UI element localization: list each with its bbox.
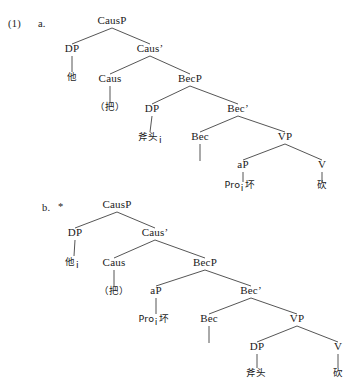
node-text: V <box>334 340 342 352</box>
tree-node-ba: （把） <box>99 285 130 296</box>
tree-node-bec-head: Bec <box>200 312 218 324</box>
node-text: 他 <box>65 256 75 267</box>
node-text: Bec <box>191 130 209 142</box>
node-text: DP <box>250 340 264 352</box>
node-subscript: i <box>155 316 158 327</box>
tree-node-pro-huai: Proi坏 <box>139 313 170 327</box>
node-text: 斧头 <box>138 131 158 142</box>
node-text: 斧头 <box>246 367 266 378</box>
tree-branch <box>156 270 205 286</box>
node-subscript: i <box>159 134 162 145</box>
tree-node-caus-bar: Caus’ <box>142 226 169 238</box>
tree-node-ta: 他 <box>67 71 77 82</box>
node-text: BecP <box>193 256 217 268</box>
tree-branch <box>150 116 152 132</box>
tree-node-dp-object: DP <box>250 340 264 352</box>
node-suffix: 坏 <box>159 313 169 324</box>
tree-canvas: CausPDPCaus’他CausBecP（把）DPBec’斧头iBecVPaP… <box>0 0 357 392</box>
tree-b: CausPDPCaus’他iCausBecP（把）aPBec’Proi坏BecV… <box>65 198 343 378</box>
tree-node-ap: aP <box>150 284 161 296</box>
tree-node-causp: CausP <box>97 14 126 26</box>
node-text: Bec’ <box>240 284 262 296</box>
node-text: Pro <box>139 313 155 324</box>
tree-a: CausPDPCaus’他CausBecP（把）DPBec’斧头iBecVPaP… <box>65 14 327 193</box>
node-text: 他 <box>67 71 77 82</box>
node-text: aP <box>150 284 161 296</box>
node-text: 砍 <box>333 367 343 378</box>
tree-node-dp-subject: DP <box>65 42 79 54</box>
node-text: VP <box>290 312 304 324</box>
node-text: VP <box>278 130 292 142</box>
tree-branch <box>74 240 75 256</box>
node-text: BecP <box>178 72 202 84</box>
tree-node-caus-head: Caus <box>103 256 126 268</box>
node-text: Bec <box>200 312 218 324</box>
node-text: Caus’ <box>142 226 169 238</box>
tree-node-kan: 砍 <box>317 179 327 190</box>
tree-node-ta: 他i <box>65 256 79 270</box>
node-text: Caus <box>103 256 126 268</box>
tree-node-vp: VP <box>290 312 304 324</box>
tree-node-caus-head: Caus <box>99 72 122 84</box>
node-text: DP <box>145 102 159 114</box>
tree-node-v-head: V <box>334 340 342 352</box>
tree-branch <box>243 144 285 160</box>
tree-node-bec-bar: Bec’ <box>240 284 262 296</box>
node-subscript: i <box>241 182 244 193</box>
node-text: V <box>318 158 326 170</box>
node-text: （把） <box>95 101 126 112</box>
node-text: CausP <box>97 14 126 26</box>
tree-node-causp: CausP <box>102 198 131 210</box>
node-text: 砍 <box>317 179 327 190</box>
tree-node-ap: aP <box>237 158 248 170</box>
node-text: Caus’ <box>137 42 164 54</box>
node-text: CausP <box>102 198 131 210</box>
tree-node-bec-head: Bec <box>191 130 209 142</box>
tree-node-kan: 砍 <box>333 367 343 378</box>
node-text: Pro <box>225 179 241 190</box>
node-text: Caus <box>99 72 122 84</box>
tree-node-dp-object: DP <box>145 102 159 114</box>
tree-node-dp-subject: DP <box>68 226 82 238</box>
tree-node-futou: 斧头i <box>138 131 162 145</box>
node-subscript: i <box>76 259 79 270</box>
node-suffix: 坏 <box>245 179 255 190</box>
node-text: （把） <box>99 285 130 296</box>
tree-branch <box>297 326 338 342</box>
node-text: DP <box>68 226 82 238</box>
node-text: DP <box>65 42 79 54</box>
syntax-tree-figure: (1) a. b. * CausPDPCaus’他CausBecP（把）DPBe… <box>0 0 357 392</box>
tree-node-ba: （把） <box>95 101 126 112</box>
tree-node-becp: BecP <box>193 256 217 268</box>
tree-node-becp: BecP <box>178 72 202 84</box>
tree-node-vp: VP <box>278 130 292 142</box>
tree-node-caus-bar: Caus’ <box>137 42 164 54</box>
tree-node-bec-bar: Bec’ <box>227 102 249 114</box>
tree-branch <box>285 144 322 160</box>
node-text: aP <box>237 158 248 170</box>
tree-node-pro-huai: Proi坏 <box>225 179 256 193</box>
node-text: Bec’ <box>227 102 249 114</box>
tree-node-v-head: V <box>318 158 326 170</box>
tree-node-futou: 斧头 <box>246 367 266 378</box>
